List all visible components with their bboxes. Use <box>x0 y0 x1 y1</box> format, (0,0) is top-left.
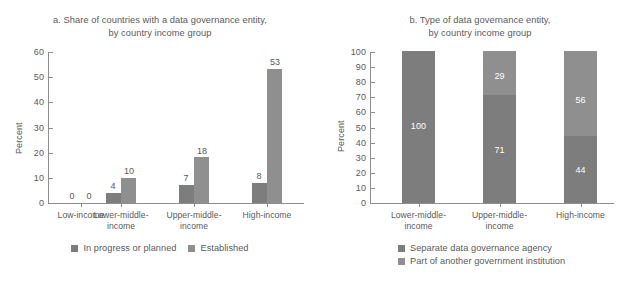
panel-a-bar-high-inprogress <box>252 183 267 203</box>
panel-a-plot-area: 0 10 20 30 40 50 60 0 0 Low-income 4 10 … <box>48 52 304 204</box>
panel-a-legend-item-in-progress[interactable]: In progress or planned <box>71 243 176 253</box>
panel-a-value-uppermiddle-established: 18 <box>197 146 207 156</box>
panel-a-bar-uppermiddle-established <box>194 157 209 203</box>
panel-b-value-uppermiddle-separate: 71 <box>494 145 504 155</box>
panel-a-legend-label-established: Established <box>200 243 248 253</box>
figure-root: a. Share of countries with a data govern… <box>0 0 640 287</box>
panel-b: b. Type of data governance entity, by co… <box>320 0 640 287</box>
panel-a-xtick-label-high: High-income <box>243 210 292 221</box>
panel-a-ytick-20: 20 <box>34 148 49 158</box>
panel-b-xtick-mark-high <box>581 203 582 207</box>
panel-b-bar-high-partof <box>564 51 597 136</box>
panel-b-ytick-100: 100 <box>351 47 371 57</box>
panel-b-ytick-10: 10 <box>356 183 371 193</box>
panel-a-bar-lowermiddle-established <box>121 178 136 203</box>
panel-a-xtick-label-uppermiddle: Upper-middle- income <box>166 210 221 231</box>
panel-a-ytick-30: 30 <box>34 123 49 133</box>
panel-b-value-high-partof: 56 <box>575 95 585 105</box>
panel-a-ytick-50: 50 <box>34 72 49 82</box>
panel-b-legend-label-part-of-institution: Part of another government institution <box>410 256 565 266</box>
panel-b-ytick-70: 70 <box>356 92 371 102</box>
panel-a-xtick-mark-uppermiddle <box>194 203 195 207</box>
legend-swatch-icon <box>398 258 405 265</box>
panel-a-title-line2: by country income group <box>10 27 310 40</box>
panel-a-value-uppermiddle-inprogress: 7 <box>183 173 188 183</box>
panel-b-legend-label-separate-agency: Separate data governance agency <box>410 243 552 253</box>
panel-a-title-line1: a. Share of countries with a data govern… <box>10 14 310 27</box>
panel-a-xtick-mark-lowermiddle <box>121 203 122 207</box>
legend-swatch-icon <box>71 245 78 252</box>
panel-a-value-high-established: 53 <box>270 57 280 67</box>
panel-b-ytick-40: 40 <box>356 138 371 148</box>
panel-b-title-line1: b. Type of data governance entity, <box>330 14 630 27</box>
panel-b-value-high-separate: 44 <box>575 165 585 175</box>
panel-a-y-axis-label: Percent <box>14 122 24 154</box>
panel-a-legend-item-established[interactable]: Established <box>188 243 248 253</box>
panel-a-legend: In progress or planned Established <box>0 243 320 253</box>
panel-a-value-low-inprogress: 0 <box>69 191 74 201</box>
legend-swatch-icon <box>398 245 405 252</box>
panel-a-bar-uppermiddle-inprogress <box>179 185 194 203</box>
panel-b-xtick-label-uppermiddle: Upper-middle- income <box>472 210 527 231</box>
panel-b-xtick-label-high: High-income <box>556 210 605 221</box>
panel-b-ytick-30: 30 <box>356 153 371 163</box>
panel-a-xtick-label-lowermiddle: Lower-middle- income <box>93 210 148 231</box>
panel-b-y-axis-label: Percent <box>336 120 346 152</box>
panel-a-ytick-60: 60 <box>34 47 49 57</box>
panel-a-title: a. Share of countries with a data govern… <box>10 14 310 39</box>
panel-b-ytick-20: 20 <box>356 168 371 178</box>
panel-b-value-lowermiddle-separate: 100 <box>411 121 426 131</box>
panel-a-ytick-40: 40 <box>34 97 49 107</box>
panel-b-ytick-50: 50 <box>356 123 371 133</box>
panel-b-title: b. Type of data governance entity, by co… <box>330 14 630 39</box>
panel-a-value-low-established: 0 <box>86 191 91 201</box>
legend-swatch-icon <box>188 245 195 252</box>
panel-a-ytick-0: 0 <box>39 198 49 208</box>
panel-a-value-lowermiddle-established: 10 <box>124 166 134 176</box>
panel-b-ytick-0: 0 <box>361 198 371 208</box>
panel-b-ytick-60: 60 <box>356 107 371 117</box>
panel-a: a. Share of countries with a data govern… <box>0 0 320 287</box>
panel-a-ytick-10: 10 <box>34 173 49 183</box>
panel-b-legend-item-separate-agency[interactable]: Separate data governance agency <box>398 243 552 253</box>
panel-a-xtick-mark-low <box>81 203 82 207</box>
panel-a-bar-lowermiddle-inprogress <box>106 193 121 203</box>
panel-b-xtick-mark-uppermiddle <box>500 203 501 207</box>
panel-b-xtick-label-lowermiddle: Lower-middle- income <box>391 210 446 231</box>
panel-a-value-high-inprogress: 8 <box>256 171 261 181</box>
panel-a-value-lowermiddle-inprogress: 4 <box>110 181 115 191</box>
panel-b-xtick-mark-lowermiddle <box>419 203 420 207</box>
panel-b-legend: Separate data governance agency Part of … <box>320 243 640 266</box>
panel-b-ytick-90: 90 <box>356 62 371 72</box>
panel-b-value-uppermiddle-partof: 29 <box>494 71 504 81</box>
panel-a-xtick-mark-high <box>267 203 268 207</box>
panel-b-legend-item-part-of-institution[interactable]: Part of another government institution <box>398 256 565 266</box>
panel-b-plot-area: 0 10 20 30 40 50 60 70 80 90 100 100 Low… <box>370 52 614 204</box>
panel-a-legend-label-in-progress: In progress or planned <box>83 243 176 253</box>
panel-b-title-line2: by country income group <box>330 27 630 40</box>
panel-a-bar-high-established <box>267 69 282 203</box>
panel-b-ytick-80: 80 <box>356 77 371 87</box>
